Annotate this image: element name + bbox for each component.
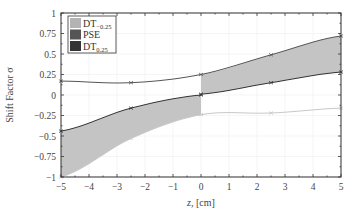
- y-axis-label: Shift Factor σ: [4, 67, 15, 123]
- y-tick-label: −1: [46, 173, 56, 183]
- x-tick-label: 5: [339, 182, 344, 192]
- y-tick-label: 0.25: [39, 70, 56, 80]
- legend: DT−0.25PSEDT0.25: [68, 16, 116, 53]
- shift-factor-chart: −5−4−3−2−1012345 10.750.50.250−0.25−0.5−…: [0, 0, 361, 214]
- x-tick-label: 4: [311, 182, 316, 192]
- x-tick-label: 3: [283, 182, 288, 192]
- y-tick-label: 0: [51, 91, 56, 101]
- x-tick-label: −5: [56, 182, 66, 192]
- legend-swatch: [70, 18, 81, 28]
- x-tick-label: 0: [199, 182, 204, 192]
- x-tick-label: −2: [140, 182, 150, 192]
- y-tick-label: −0.5: [39, 132, 56, 142]
- legend-label: PSE: [83, 29, 100, 40]
- y-tick-label: 0.5: [44, 50, 56, 60]
- y-tick-label: −0.25: [34, 111, 56, 121]
- x-tick-label: −3: [112, 182, 122, 192]
- y-tick-label: 0.75: [39, 29, 56, 39]
- y-tick-labels: 10.750.50.250−0.25−0.5−0.75−1: [34, 9, 56, 183]
- x-tick-label: 1: [227, 182, 232, 192]
- x-axis-label: z, [cm]: [186, 197, 215, 208]
- x-tick-labels: −5−4−3−2−1012345: [56, 182, 344, 192]
- y-tick-label: −0.75: [34, 152, 56, 162]
- x-tick-label: −4: [84, 182, 94, 192]
- right-band: [201, 36, 341, 94]
- x-tick-label: 2: [255, 182, 260, 192]
- x-tick-label: −1: [168, 182, 178, 192]
- legend-swatch: [70, 41, 81, 51]
- legend-swatch: [70, 30, 81, 40]
- y-tick-label: 1: [51, 9, 56, 19]
